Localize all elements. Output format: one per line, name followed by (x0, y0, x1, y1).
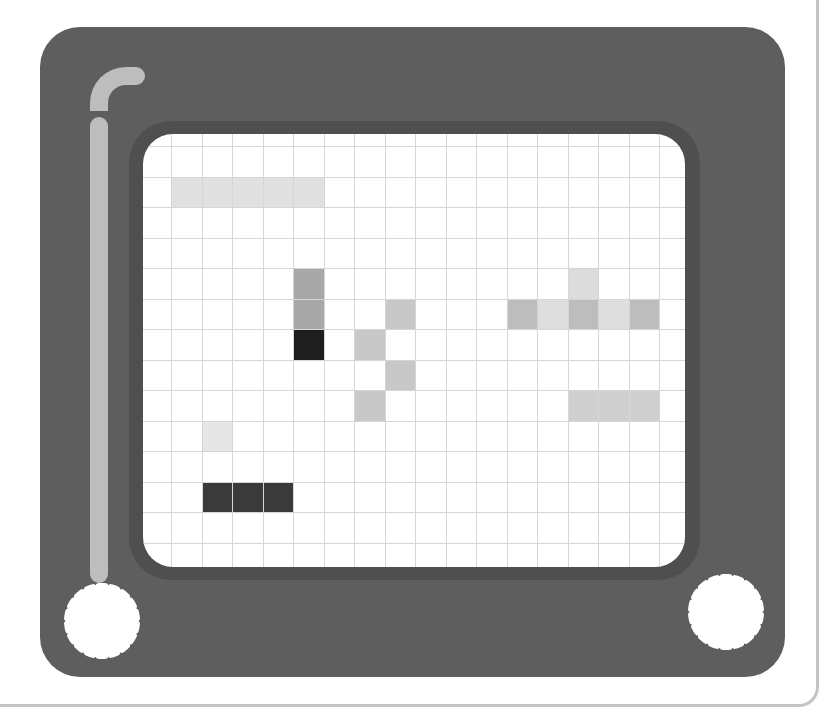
grid-line-vertical (415, 134, 416, 567)
grid-line-vertical (629, 134, 630, 567)
grid-line-horizontal (143, 421, 685, 422)
grid-cell (537, 299, 568, 330)
grid-cell (293, 177, 324, 208)
grid-line-vertical (385, 134, 386, 567)
grid-cell (202, 421, 233, 452)
grid-cell (263, 177, 294, 208)
grid-line-horizontal (143, 238, 685, 239)
grid-line-horizontal (143, 543, 685, 544)
grid-line-horizontal (143, 360, 685, 361)
grid-cell (293, 268, 324, 299)
grid-line-vertical (324, 134, 325, 567)
grid-line-vertical (598, 134, 599, 567)
grid-cell (293, 299, 324, 330)
grid-cell (598, 390, 629, 421)
grid-cell (598, 299, 629, 330)
grid-line-horizontal (143, 207, 685, 208)
grid-line-horizontal (143, 390, 685, 391)
grid-line-vertical (263, 134, 264, 567)
drawing-screen[interactable] (143, 134, 685, 567)
grid-line-horizontal (143, 177, 685, 178)
grid-cell (202, 482, 233, 513)
grid-cell (629, 299, 660, 330)
frame-highlight-bar (90, 117, 108, 583)
grid-line-vertical (507, 134, 508, 567)
grid-line-vertical (171, 134, 172, 567)
knob-icon (687, 573, 765, 651)
grid-line-vertical (537, 134, 538, 567)
grid-line-vertical (446, 134, 447, 567)
grid-line-vertical (659, 134, 660, 567)
grid-cell (629, 390, 660, 421)
grid-line-horizontal (143, 482, 685, 483)
grid-cell (568, 390, 599, 421)
grid-cell (568, 299, 599, 330)
grid-line-horizontal (143, 299, 685, 300)
grid-line-horizontal (143, 146, 685, 147)
grid-cell (232, 482, 263, 513)
grid-line-horizontal (143, 329, 685, 330)
knob-icon (63, 582, 141, 660)
grid-cell (507, 299, 538, 330)
grid-cell (293, 329, 324, 360)
frame-highlight-corner (90, 67, 136, 111)
grid-cell (354, 390, 385, 421)
left-knob[interactable] (63, 582, 141, 660)
grid-line-vertical (354, 134, 355, 567)
grid-line-vertical (568, 134, 569, 567)
grid-cell (385, 299, 416, 330)
grid-line-horizontal (143, 512, 685, 513)
grid-line-vertical (476, 134, 477, 567)
grid-line-vertical (232, 134, 233, 567)
grid-cell (202, 177, 233, 208)
grid-line-vertical (202, 134, 203, 567)
grid-line-horizontal (143, 268, 685, 269)
grid-cell (568, 268, 599, 299)
grid-line-vertical (293, 134, 294, 567)
grid-cell (354, 329, 385, 360)
right-knob[interactable] (687, 573, 765, 651)
grid-line-horizontal (143, 451, 685, 452)
grid-cell (232, 177, 263, 208)
grid-cell (171, 177, 202, 208)
grid-cell (263, 482, 294, 513)
grid-cell (385, 360, 416, 391)
